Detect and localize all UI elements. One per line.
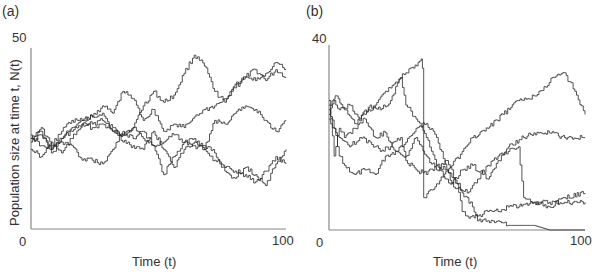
trajectory-line — [31, 119, 286, 186]
trajectory-line — [329, 110, 585, 218]
trajectory-line — [329, 119, 585, 230]
panel-b-trajectories — [329, 59, 585, 230]
panel-a-trajectories — [31, 55, 286, 185]
trajectory-line — [329, 101, 585, 184]
trajectory-line — [31, 63, 286, 150]
panel-b-axes — [329, 45, 585, 230]
trajectory-line — [31, 113, 286, 183]
trajectory-line — [31, 55, 286, 149]
figure-canvas — [0, 0, 603, 272]
trajectory-line — [329, 59, 585, 198]
